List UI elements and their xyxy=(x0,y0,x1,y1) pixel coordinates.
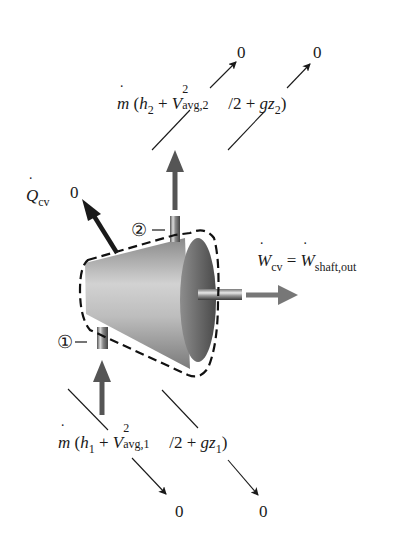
potential-symbol: gz xyxy=(260,94,275,113)
heat-zero: 0 xyxy=(70,184,79,201)
subscript: 1 xyxy=(216,442,222,456)
paren-close: ) xyxy=(222,433,228,452)
velocity-symbol: V xyxy=(113,433,123,452)
enthalpy-symbol: h xyxy=(139,94,148,113)
superscript: 2 xyxy=(123,422,129,434)
subscript: 2 xyxy=(148,103,154,117)
inlet-pe-zero: 0 xyxy=(259,503,268,520)
subscript: shaft,out xyxy=(315,260,357,274)
state-1-label: ① xyxy=(57,333,73,351)
plus-sign: + xyxy=(246,94,256,113)
heat-label: Qcv xyxy=(26,187,50,204)
work-symbol: W xyxy=(257,251,271,270)
plus-sign: + xyxy=(158,94,168,113)
outlet-energy-term: m (h2 + V2avg,2/2 + gz2) xyxy=(117,92,286,112)
potential-symbol: gz xyxy=(201,433,216,452)
outlet-pe-zero: 0 xyxy=(313,44,322,61)
turbine-body xyxy=(85,238,216,369)
work-label: Wcv = Wshaft,out xyxy=(257,252,356,269)
divisor: /2 xyxy=(169,433,182,452)
mass-flow-symbol: m xyxy=(58,433,70,452)
outlet-ke-zero: 0 xyxy=(237,44,246,61)
paren-close: ) xyxy=(281,94,287,113)
superscript: 2 xyxy=(182,83,188,95)
subscript: cv xyxy=(38,195,49,209)
plus-sign: + xyxy=(99,433,109,452)
shaft xyxy=(198,289,242,300)
outlet-pipe xyxy=(170,216,180,242)
mass-flow-symbol: m xyxy=(117,94,129,113)
inlet-ke-zero: 0 xyxy=(175,503,184,520)
divisor: /2 xyxy=(228,94,241,113)
heat-symbol: Q xyxy=(26,186,38,205)
subscript: avg,1 xyxy=(123,438,149,450)
heat-transfer-arrow xyxy=(82,199,117,253)
velocity-symbol: V xyxy=(172,94,182,113)
subscript: cv xyxy=(271,260,282,274)
inlet-flow-arrow xyxy=(93,360,111,415)
subscript: avg,2 xyxy=(182,99,208,111)
subscript: 1 xyxy=(89,442,95,456)
inlet-pipe xyxy=(97,327,108,349)
plus-sign: + xyxy=(187,433,197,452)
state-2-label: ② xyxy=(131,221,147,239)
work-output-arrow xyxy=(246,285,298,305)
outlet-flow-arrow xyxy=(166,150,184,210)
shaft-work-symbol: W xyxy=(301,251,315,270)
enthalpy-symbol: h xyxy=(80,433,89,452)
inlet-energy-term: m (h1 + V2avg,1/2 + gz1) xyxy=(58,431,227,451)
subscript: 2 xyxy=(275,103,281,117)
equals-sign: = xyxy=(287,251,297,270)
diagram-canvas xyxy=(0,0,403,552)
